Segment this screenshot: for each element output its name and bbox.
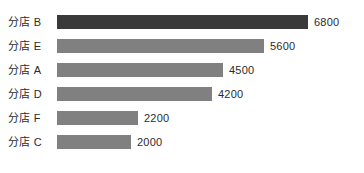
bar-row: 分店 B 6800	[0, 10, 364, 34]
bar	[57, 39, 264, 53]
category-label: 分店 D	[8, 82, 54, 106]
bar-track: 6800	[57, 10, 357, 34]
category-label: 分店 A	[8, 58, 54, 82]
bar-row: 分店 F 2200	[0, 106, 364, 130]
category-label: 分店 C	[8, 130, 54, 154]
bar-row: 分店 C 2000	[0, 130, 364, 154]
value-label: 4200	[218, 82, 243, 106]
bar-row: 分店 A 4500	[0, 58, 364, 82]
bar-track: 5600	[57, 34, 357, 58]
value-label: 2000	[137, 130, 162, 154]
plot-area: 分店 B 6800 分店 E 5600 分店 A 4500 分店 D	[0, 0, 364, 173]
bar	[57, 87, 212, 101]
category-label: 分店 F	[8, 106, 54, 130]
bar	[57, 15, 308, 29]
bar-track: 4200	[57, 82, 357, 106]
bar	[57, 111, 138, 125]
bar-track: 2200	[57, 106, 357, 130]
bar	[57, 135, 131, 149]
bar-track: 4500	[57, 58, 357, 82]
value-label: 4500	[229, 58, 254, 82]
category-label: 分店 E	[8, 34, 54, 58]
category-label: 分店 B	[8, 10, 54, 34]
bar-track: 2000	[57, 130, 357, 154]
value-label: 2200	[144, 106, 169, 130]
bar-row: 分店 D 4200	[0, 82, 364, 106]
value-label: 6800	[314, 10, 339, 34]
bar-chart: 分店 B 6800 分店 E 5600 分店 A 4500 分店 D	[0, 0, 364, 173]
bar-row: 分店 E 5600	[0, 34, 364, 58]
bar	[57, 63, 223, 77]
value-label: 5600	[270, 34, 295, 58]
